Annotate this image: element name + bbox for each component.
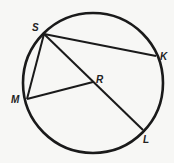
radius-mr [27, 82, 93, 99]
label-s: S [32, 22, 39, 33]
diameter-sl [44, 34, 143, 130]
chord-sk [44, 34, 156, 56]
label-l: L [143, 134, 149, 145]
circle-diagram: S K R M L [0, 0, 174, 163]
label-k: K [160, 51, 168, 62]
label-r: R [96, 74, 104, 85]
label-m: M [11, 94, 20, 105]
